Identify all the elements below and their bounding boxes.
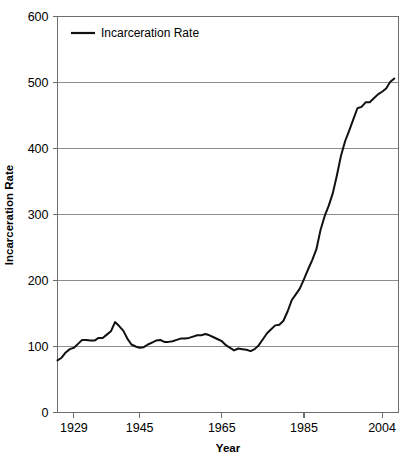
y-tick-label-0: 0: [42, 406, 49, 420]
x-tick-label-1985: 1985: [290, 421, 318, 435]
y-tick-label-600: 600: [28, 10, 49, 24]
y-tick-label-400: 400: [28, 142, 49, 156]
y-tick-label-300: 300: [28, 208, 49, 222]
y-tick-label-200: 200: [28, 274, 49, 288]
line-chart: 0100200300400500600 19291945196519852004…: [0, 0, 407, 460]
chart-container: 0100200300400500600 19291945196519852004…: [0, 0, 407, 460]
legend-label-incarceration-rate: Incarceration Rate: [101, 26, 199, 40]
x-tick-label-1929: 1929: [60, 421, 88, 435]
x-tick-label-1965: 1965: [208, 421, 236, 435]
x-tick-label-2004: 2004: [368, 421, 396, 435]
y-axis-title: Incarceration Rate: [3, 165, 15, 265]
x-tick-label-1945: 1945: [126, 421, 154, 435]
y-tick-label-100: 100: [28, 340, 49, 354]
chart-background: [0, 0, 407, 460]
x-axis-title: Year: [216, 442, 241, 454]
y-tick-label-500: 500: [28, 76, 49, 90]
